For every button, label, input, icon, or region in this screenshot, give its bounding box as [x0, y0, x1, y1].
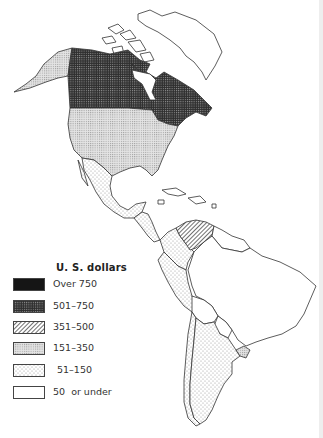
- legend-label: 50 or under: [53, 386, 112, 397]
- legend-label: Over 750: [53, 278, 97, 289]
- legend-item-351-500: 351–500: [13, 321, 133, 337]
- swatch-light-grid: [13, 342, 45, 355]
- region-alaska: [14, 48, 72, 92]
- region-argentina: [190, 318, 240, 424]
- legend-item-151-350: 151–350: [13, 342, 133, 358]
- legend-item-50-or-under: 50 or under: [13, 386, 133, 402]
- swatch-diagonal-hatch: [13, 321, 45, 334]
- legend-item-51-150: 51–150: [13, 364, 133, 380]
- legend-label: 151–350: [53, 342, 94, 353]
- swatch-dense-grid: [13, 300, 45, 313]
- legend-item-501-750: 501–750: [13, 300, 133, 316]
- swatch-solid-black: [13, 278, 45, 291]
- region-greenland: [138, 10, 222, 80]
- swatch-blank: [13, 386, 45, 399]
- page-edge: [319, 0, 323, 438]
- legend-label: 351–500: [53, 321, 94, 332]
- legend-label: 501–750: [53, 300, 94, 311]
- legend-item-over-750: Over 750: [13, 278, 133, 294]
- legend-title: U. S. dollars: [56, 262, 127, 273]
- region-caribbean: [158, 188, 216, 208]
- legend-label: 51–150: [57, 364, 92, 375]
- region-central-america: [134, 212, 160, 242]
- swatch-sparse-dots: [13, 364, 45, 377]
